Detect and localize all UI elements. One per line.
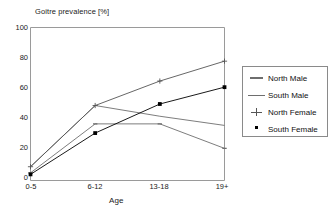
legend-label: North Male <box>266 74 307 83</box>
legend-label: North Female <box>266 108 316 117</box>
north-female-marker-icon <box>247 105 266 119</box>
legend-label: South Male <box>266 91 308 100</box>
series-south-male <box>31 106 225 167</box>
north-male-marker-icon <box>247 71 266 85</box>
data-point <box>93 131 97 135</box>
axis-frame <box>31 28 225 181</box>
legend-item-south-male[interactable]: South Male <box>247 87 308 103</box>
south-female-marker-icon <box>247 122 266 136</box>
legend-item-north-male[interactable]: North Male <box>247 70 307 86</box>
south-male-marker-icon <box>247 88 266 102</box>
series-layer <box>28 59 227 177</box>
data-point <box>29 172 33 176</box>
legend-item-south-female[interactable]: South Female <box>247 121 318 137</box>
chart-figure: Goitre prevalence [%] 100 80 60 40 20 0 … <box>0 0 332 214</box>
legend-item-north-female[interactable]: North Female <box>247 104 316 120</box>
series-south-female <box>29 85 227 176</box>
legend-label: South Female <box>266 125 318 134</box>
legend: North Male South Male North Female South… <box>242 66 328 137</box>
data-point <box>158 102 162 106</box>
data-point <box>223 85 227 89</box>
series-north-male <box>28 124 226 173</box>
